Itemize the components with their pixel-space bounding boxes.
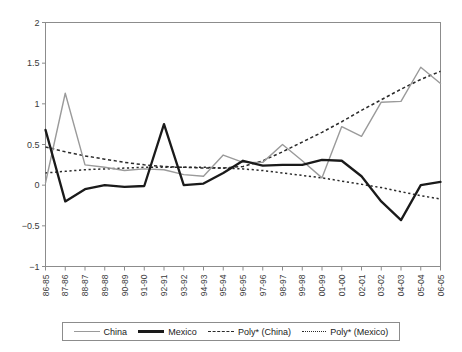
legend-label-poly-mexico: Poly* (Mexico): [330, 327, 388, 337]
x-tick-label: 92-91: [159, 274, 169, 296]
x-tick-label: 05-04: [416, 274, 426, 296]
y-tick-label: 0.5: [27, 140, 40, 150]
x-tick-label: 89-88: [100, 274, 110, 296]
legend-item-poly-mexico[interactable]: Poly* (Mexico): [302, 327, 388, 337]
x-tick-label: 99-98: [297, 274, 307, 296]
legend-swatch-mexico-icon: [138, 330, 164, 333]
x-tick-label: 01-00: [337, 274, 347, 296]
x-tick-label: 94-93: [199, 274, 209, 296]
y-tick-label: 2: [34, 18, 39, 28]
x-tick-label: 00-99: [317, 274, 327, 296]
y-tick-label: 0: [34, 180, 39, 190]
legend-item-mexico[interactable]: Mexico: [138, 327, 197, 337]
x-tick-label: 88-87: [80, 274, 90, 296]
x-tick-label: 93-92: [179, 274, 189, 296]
chart-plot-area: 86-8587-8688-8789-8890-8991-9092-9193-92…: [0, 0, 462, 352]
x-tick-label: 04-03: [396, 274, 406, 296]
x-tick-label: 03-02: [376, 274, 386, 296]
line-chart-svg: 86-8587-8688-8789-8890-8991-9092-9193-92…: [0, 0, 462, 352]
axes: [46, 23, 441, 267]
series-line-poly-china: [46, 71, 441, 168]
x-tick-label: 86-85: [41, 274, 51, 296]
y-tick-label: −0.5: [22, 221, 40, 231]
y-tick-label: 1.5: [27, 58, 40, 68]
chart-root: 86-8587-8688-8789-8890-8991-9092-9193-92…: [0, 0, 462, 352]
series-line-mexico: [46, 124, 441, 220]
x-tick-label: 91-90: [139, 274, 149, 296]
x-axis-labels: 86-8587-8688-8789-8890-8991-9092-9193-92…: [41, 274, 446, 296]
legend-label-china: China: [104, 327, 128, 337]
legend-label-poly-china: Poly* (China): [238, 327, 291, 337]
x-tick-label: 06-05: [436, 274, 446, 296]
legend-swatch-china-icon: [74, 331, 100, 332]
y-tick-label: −1: [29, 262, 39, 272]
y-axis-ticks: [42, 23, 46, 267]
x-tick-label: 97-96: [258, 274, 268, 296]
x-tick-label: 87-86: [60, 274, 70, 296]
legend-swatch-poly-mexico-icon: [302, 331, 326, 332]
series-line-china: [46, 67, 441, 182]
y-axis-labels: −1−0.500.511.52: [22, 18, 40, 272]
x-tick-label: 02-01: [357, 274, 367, 296]
series-line-poly-mexico: [46, 167, 441, 199]
x-tick-label: 90-89: [120, 274, 130, 296]
y-tick-label: 1: [34, 99, 39, 109]
x-tick-label: 96-95: [238, 274, 248, 296]
legend-swatch-poly-china-icon: [208, 331, 234, 332]
legend-item-china[interactable]: China: [74, 327, 128, 337]
chart-legend: China Mexico Poly* (China) Poly* (Mexico…: [62, 322, 400, 341]
legend-label-mexico: Mexico: [168, 327, 197, 337]
legend-item-poly-china[interactable]: Poly* (China): [208, 327, 291, 337]
x-tick-label: 98-97: [278, 274, 288, 296]
x-tick-label: 95-94: [218, 274, 228, 296]
data-series-group: [46, 67, 441, 220]
x-axis-ticks: [46, 267, 441, 271]
